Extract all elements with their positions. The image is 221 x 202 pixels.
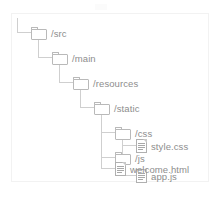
connector-static-to-js	[101, 157, 115, 158]
tree-node-src[interactable]: /src	[31, 25, 67, 41]
diagram-caption	[14, 188, 134, 196]
tree-node-label: welcome.html	[130, 164, 189, 175]
page-root: /src /main /resources /static /css	[0, 0, 221, 202]
connector-main-vertical	[59, 64, 60, 82]
connector-src-to-main	[38, 57, 52, 58]
tree-node-label: /resources	[93, 78, 138, 89]
connector-css-to-style	[122, 145, 136, 146]
tree-node-static[interactable]: /static	[94, 100, 140, 116]
connector-static-trunk	[101, 114, 102, 168]
tree-node-welcome-html[interactable]: welcome.html	[115, 161, 189, 177]
tree-node-label: /main	[72, 53, 96, 64]
folder-icon	[31, 27, 47, 40]
connector-root-vertical	[17, 18, 18, 32]
connector-static-to-welcome	[101, 168, 115, 169]
tree-node-resources[interactable]: /resources	[73, 75, 138, 91]
tree-node-label: /src	[51, 28, 67, 39]
folder-icon	[73, 77, 89, 90]
file-tree-diagram: /src /main /resources /static /css	[11, 13, 209, 182]
file-icon	[115, 162, 126, 176]
connector-resources-vertical	[80, 89, 81, 107]
tree-node-main[interactable]: /main	[52, 50, 96, 66]
folder-icon	[52, 52, 68, 65]
connector-static-to-css	[101, 132, 115, 133]
tree-node-label: style.css	[151, 141, 188, 152]
connector-main-to-resources	[59, 82, 73, 83]
folder-icon	[94, 102, 110, 115]
folder-icon	[115, 127, 131, 140]
top-artifact-mark	[95, 4, 107, 10]
connector-resources-to-static	[80, 107, 94, 108]
connector-root-to-src	[17, 32, 31, 33]
tree-node-label: /static	[114, 103, 140, 114]
connector-src-vertical	[38, 39, 39, 57]
tree-node-label: /css	[135, 128, 152, 139]
